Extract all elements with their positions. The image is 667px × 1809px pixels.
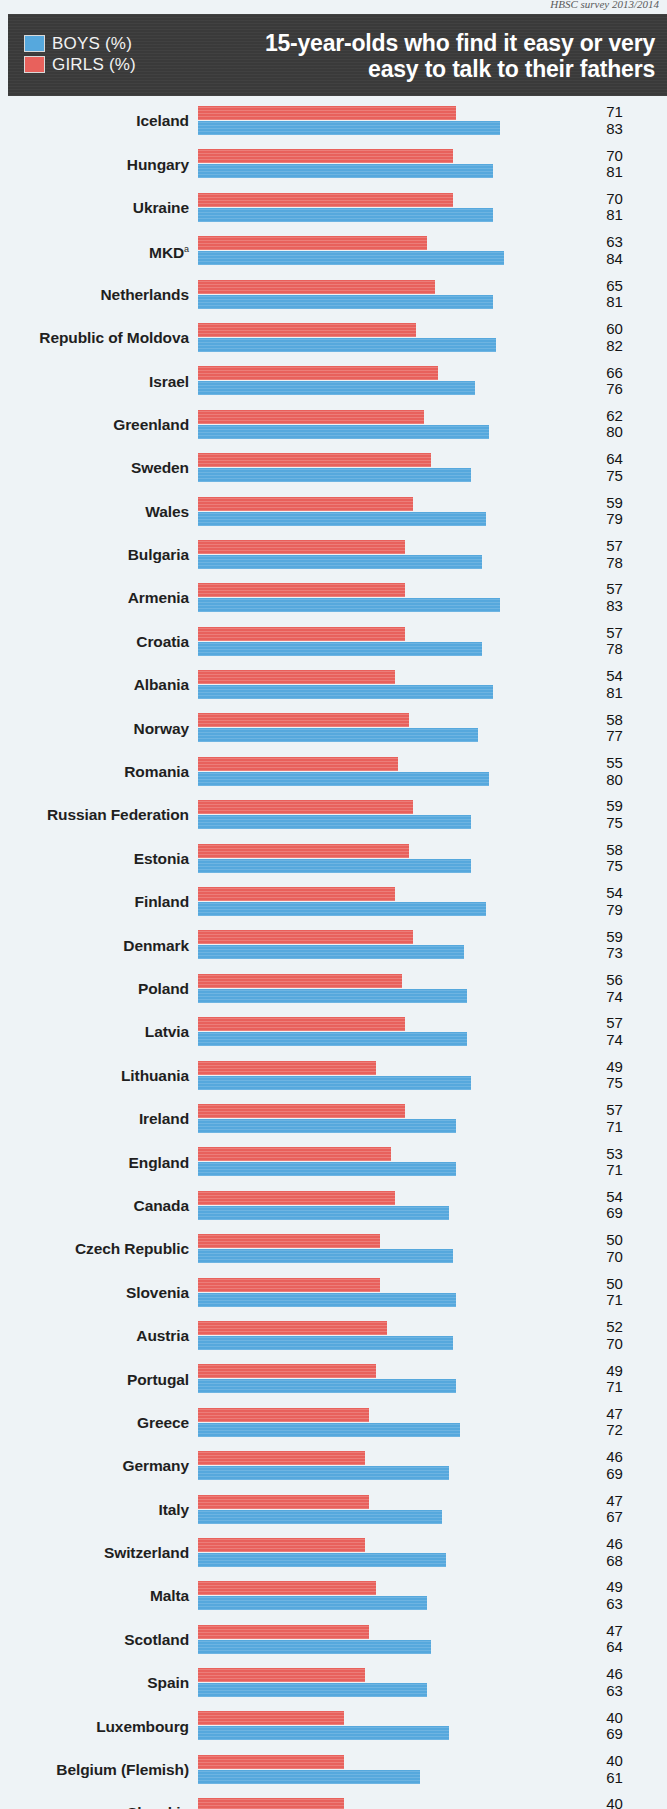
bar-girls [198, 410, 424, 424]
bar-girls [198, 497, 413, 511]
row-bars [198, 706, 552, 749]
value-girls: 49 [562, 1363, 667, 1380]
chart-row-country: Netherlands6581 [8, 273, 667, 316]
row-bars [198, 576, 552, 619]
row-values: 4663 [552, 1666, 667, 1699]
bar-boys [198, 685, 493, 699]
bar-boys [198, 1596, 427, 1610]
row-values: 4971 [552, 1363, 667, 1396]
bar-girls [198, 930, 413, 944]
chart-row-country: England5371 [8, 1140, 667, 1183]
chart-row-country: Slovenia5071 [8, 1271, 667, 1314]
row-values: 6581 [552, 278, 667, 311]
bar-boys [198, 1726, 449, 1740]
chart-row-country: Switzerland4668 [8, 1531, 667, 1574]
row-label: Romania [8, 763, 198, 780]
bar-boys [198, 555, 482, 569]
value-boys: 61 [562, 1770, 667, 1787]
row-bars [198, 1401, 552, 1444]
bar-girls [198, 1364, 376, 1378]
bar-girls [198, 1191, 395, 1205]
row-bars [198, 1574, 552, 1617]
value-boys: 69 [562, 1466, 667, 1483]
row-label: Estonia [8, 850, 198, 867]
bar-boys [198, 1162, 456, 1176]
chart-row-country: Belgium (Flemish)4061 [8, 1748, 667, 1791]
row-values: 5071 [552, 1276, 667, 1309]
row-values: 4772 [552, 1406, 667, 1439]
row-label: MKDa [8, 241, 198, 261]
chart-row-country: Iceland7183 [8, 99, 667, 142]
value-boys: 79 [562, 511, 667, 528]
bar-girls [198, 1798, 344, 1809]
row-label: Slovenia [8, 1284, 198, 1301]
bar-girls [198, 974, 402, 988]
row-values: 4668 [552, 1536, 667, 1569]
legend-label-girls: GIRLS (%) [52, 55, 136, 74]
row-bars [198, 750, 552, 793]
value-girls: 59 [562, 929, 667, 946]
chart-header-band: BOYS (%) GIRLS (%) 15-year-olds who find… [8, 14, 667, 96]
row-label: Wales [8, 503, 198, 520]
row-label: Iceland [8, 112, 198, 129]
row-bars [198, 142, 552, 185]
value-boys: 80 [562, 772, 667, 789]
chart-row-country: Russian Federation5975 [8, 793, 667, 836]
bar-boys [198, 425, 489, 439]
value-boys: 70 [562, 1336, 667, 1353]
row-label: Germany [8, 1457, 198, 1474]
chart-row-country: Ukraine7081 [8, 186, 667, 229]
row-label: Ukraine [8, 199, 198, 216]
row-values: 5771 [552, 1102, 667, 1135]
value-girls: 71 [562, 104, 667, 121]
chart-row-country: Malta4963 [8, 1574, 667, 1617]
value-girls: 65 [562, 278, 667, 295]
row-values: 5973 [552, 929, 667, 962]
chart-row-country: MKDa6384 [8, 229, 667, 272]
row-bars [198, 967, 552, 1010]
bar-girls [198, 1755, 344, 1769]
row-label: Greece [8, 1414, 198, 1431]
bar-girls [198, 1451, 365, 1465]
row-values: 6384 [552, 234, 667, 267]
value-boys: 82 [562, 338, 667, 355]
value-girls: 46 [562, 1449, 667, 1466]
row-values: 4975 [552, 1059, 667, 1092]
chart-row-country: Albania5481 [8, 663, 667, 706]
value-girls: 54 [562, 668, 667, 685]
bar-boys [198, 1336, 453, 1350]
bar-girls [198, 149, 453, 163]
row-label: Finland [8, 893, 198, 910]
row-bars [198, 1184, 552, 1227]
chart-row-country: Latvia5774 [8, 1010, 667, 1053]
value-girls: 59 [562, 495, 667, 512]
chart-row-country: Lithuania4975 [8, 1054, 667, 1097]
value-girls: 55 [562, 755, 667, 772]
value-boys: 72 [562, 1422, 667, 1439]
value-boys: 68 [562, 1553, 667, 1570]
row-label: Hungary [8, 156, 198, 173]
row-label: Portugal [8, 1371, 198, 1388]
chart-row-country: Greece4772 [8, 1401, 667, 1444]
value-boys: 63 [562, 1596, 667, 1613]
value-boys: 81 [562, 207, 667, 224]
row-bars [198, 99, 552, 142]
bar-girls [198, 1278, 380, 1292]
bar-boys [198, 772, 489, 786]
row-label: Luxembourg [8, 1718, 198, 1735]
row-values: 4669 [552, 1449, 667, 1482]
row-bars [198, 837, 552, 880]
value-boys: 79 [562, 902, 667, 919]
value-girls: 40 [562, 1796, 667, 1809]
row-bars [198, 186, 552, 229]
value-boys: 75 [562, 858, 667, 875]
chart-row-country: Estonia5875 [8, 837, 667, 880]
value-girls: 47 [562, 1493, 667, 1510]
row-values: 5674 [552, 972, 667, 1005]
bar-boys [198, 1423, 460, 1437]
row-bars [198, 1531, 552, 1574]
row-bars [198, 403, 552, 446]
value-girls: 46 [562, 1536, 667, 1553]
row-bars [198, 273, 552, 316]
chart-row-country: Spain4663 [8, 1661, 667, 1704]
